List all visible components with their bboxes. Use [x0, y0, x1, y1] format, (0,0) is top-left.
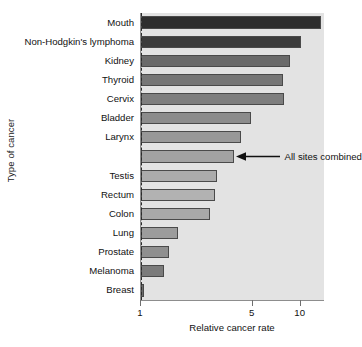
bar [141, 208, 210, 220]
category-label: Rectum [101, 190, 134, 200]
category-label: Mouth [107, 18, 134, 28]
x-axis-tick [252, 300, 253, 306]
bar [141, 189, 215, 201]
bar [141, 36, 301, 48]
y-axis-title-text: Type of cancer [6, 118, 17, 182]
category-label: Kidney [105, 56, 134, 66]
category-label-column: MouthNon-Hodgkin's lymphomaKidneyThyroid… [20, 13, 137, 300]
bar [141, 150, 234, 162]
category-label: Testis [109, 171, 134, 181]
category-label: Non-Hodgkin's lymphoma [24, 37, 134, 47]
bar [141, 55, 290, 67]
bar [141, 93, 284, 105]
category-label: Bladder [101, 113, 134, 123]
bar [141, 170, 217, 182]
category-label: Breast [106, 285, 134, 295]
category-label: Cervix [107, 94, 134, 104]
category-label: Melanoma [89, 266, 134, 276]
left-arrow-icon [236, 151, 280, 162]
bar [141, 227, 178, 239]
all-sites-combined-annotation: All sites combined [236, 151, 362, 162]
bar [141, 131, 241, 143]
annotation-label: All sites combined [285, 151, 362, 162]
category-label: Lung [113, 228, 134, 238]
y-axis-title: Type of cancer [2, 0, 20, 300]
category-label: Larynx [105, 132, 134, 142]
bar [141, 16, 321, 28]
x-axis-tick [300, 300, 301, 306]
category-label: Prostate [98, 247, 134, 257]
x-axis-tick-label: 1 [137, 307, 142, 318]
x-axis-tick-label: 10 [294, 307, 305, 318]
x-axis-title: Relative cancer rate [140, 322, 324, 333]
category-label: Thyroid [102, 75, 134, 85]
bar [141, 74, 283, 86]
bar [141, 265, 164, 277]
reference-line-at-one [141, 13, 142, 300]
x-axis-tick-label: 5 [249, 307, 254, 318]
x-axis-tick [140, 300, 141, 306]
category-label: Colon [109, 209, 134, 219]
x-axis: Relative cancer rate 1510 [140, 300, 324, 347]
bar [141, 246, 169, 258]
bar [141, 112, 251, 124]
